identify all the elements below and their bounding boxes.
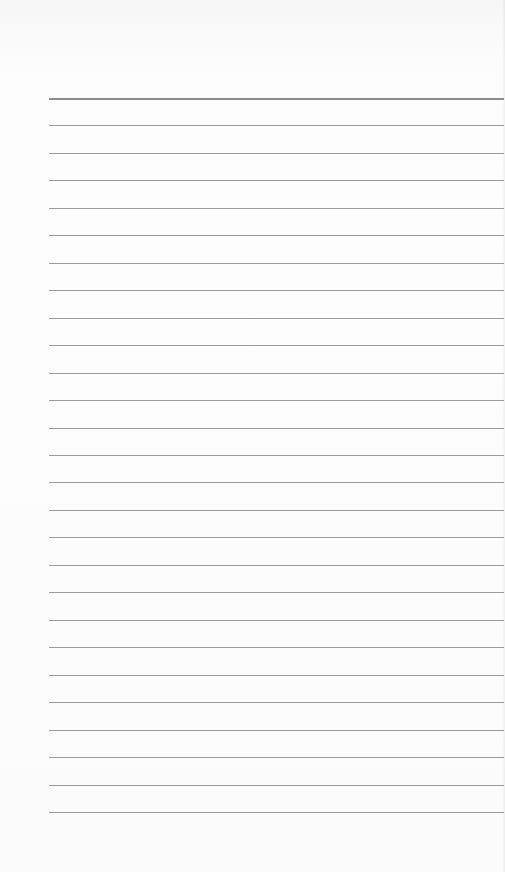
ruled-line bbox=[49, 482, 504, 483]
ruled-line bbox=[49, 318, 504, 319]
ruled-line bbox=[49, 125, 504, 126]
ruled-line bbox=[49, 565, 504, 566]
ruled-line bbox=[49, 675, 504, 676]
ruled-line bbox=[49, 263, 504, 264]
ruled-line bbox=[49, 153, 504, 154]
ruled-line bbox=[49, 812, 504, 813]
ruled-line bbox=[49, 785, 504, 786]
ruled-line bbox=[49, 208, 504, 209]
ruled-line bbox=[49, 428, 504, 429]
ruled-line bbox=[49, 455, 504, 456]
ruled-line bbox=[49, 235, 504, 236]
ruled-line bbox=[49, 537, 504, 538]
ruled-line bbox=[49, 373, 504, 374]
ruled-line bbox=[49, 757, 504, 758]
ruled-line bbox=[49, 510, 504, 511]
ruled-line bbox=[49, 345, 504, 346]
ruled-line bbox=[49, 98, 504, 100]
ruled-line bbox=[49, 400, 504, 401]
ruled-line bbox=[49, 290, 504, 291]
ruled-line bbox=[49, 702, 504, 703]
ruled-line bbox=[49, 180, 504, 181]
lined-page bbox=[0, 0, 505, 872]
ruled-line bbox=[49, 730, 504, 731]
ruled-line bbox=[49, 647, 504, 648]
ruled-line bbox=[49, 620, 504, 621]
ruled-line bbox=[49, 592, 504, 593]
